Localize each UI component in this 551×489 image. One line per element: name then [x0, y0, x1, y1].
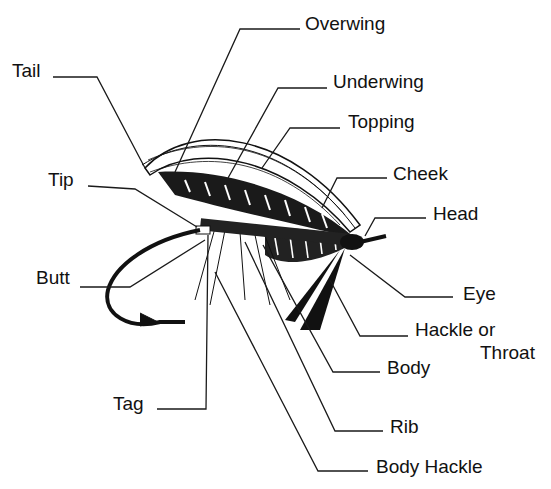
salmon-fly-diagram: Overwing Underwing Topping Tail Tip Chee…	[0, 0, 551, 489]
label-head: Head	[433, 203, 478, 224]
label-tip: Tip	[48, 169, 74, 190]
label-eye: Eye	[463, 283, 496, 304]
label-rib: Rib	[390, 416, 419, 437]
label-topping: Topping	[348, 111, 415, 132]
label-cheek: Cheek	[393, 163, 448, 184]
label-overwing: Overwing	[305, 13, 385, 34]
label-butt: Butt	[36, 267, 71, 288]
label-throat: Throat	[480, 342, 536, 363]
label-tag: Tag	[113, 393, 144, 414]
label-body-hackle: Body Hackle	[376, 456, 483, 477]
label-body: Body	[387, 357, 431, 378]
label-tail: Tail	[12, 60, 41, 81]
label-hackle: Hackle or	[415, 319, 496, 340]
fly-illustration	[107, 140, 386, 330]
label-underwing: Underwing	[333, 71, 424, 92]
